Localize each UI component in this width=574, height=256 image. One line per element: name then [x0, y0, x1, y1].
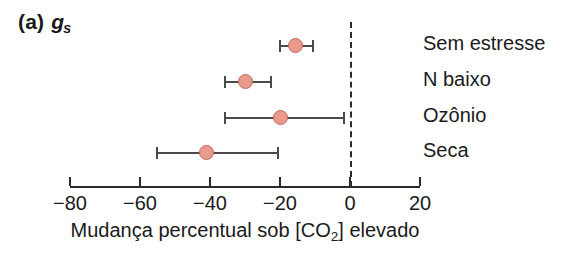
- x-axis-tick: [419, 177, 421, 186]
- errorbar-cap-high: [343, 112, 345, 124]
- x-axis-tick: [209, 177, 211, 186]
- data-point-marker: [288, 38, 303, 53]
- errorbar-cap-high: [277, 147, 279, 159]
- errorbar-cap-high: [270, 76, 272, 88]
- errorbar-cap-low: [224, 112, 226, 124]
- errorbar-line: [157, 152, 278, 154]
- x-axis-tick: [279, 177, 281, 186]
- x-axis-line: [70, 186, 420, 188]
- series-row-label: N baixo: [423, 68, 491, 91]
- x-axis-tick: [139, 177, 141, 186]
- x-axis-tick: [349, 177, 351, 186]
- plot-area: Sem estresseN baixoOzônioSeca −80−60−40−…: [0, 0, 574, 256]
- series-row-label: Ozônio: [423, 104, 486, 127]
- errorbar-cap-high: [312, 40, 314, 52]
- x-axis-tick-label: 20: [409, 192, 431, 215]
- x-axis-title-subscript: 2: [331, 229, 339, 244]
- data-point-marker: [199, 145, 214, 160]
- series-row-label: Seca: [423, 139, 469, 162]
- x-axis-tick-label: −80: [53, 192, 87, 215]
- x-axis-tick-label: −40: [193, 192, 227, 215]
- errorbar-cap-low: [224, 76, 226, 88]
- x-axis-tick-label: −60: [123, 192, 157, 215]
- data-point-marker: [238, 74, 253, 89]
- data-point-marker: [273, 110, 288, 125]
- series-row-label: Sem estresse: [423, 32, 545, 55]
- x-axis-tick-label: −20: [263, 192, 297, 215]
- x-axis-tick: [69, 177, 71, 186]
- errorbar-cap-low: [156, 147, 158, 159]
- series-row: Sem estresse: [0, 34, 574, 58]
- figure-panel-a: (a)gs Sem estresseN baixoOzônioSeca −80−…: [0, 0, 574, 256]
- series-row: Ozônio: [0, 106, 574, 130]
- x-axis-title-prefix: Mudança percentual sob [CO: [71, 219, 331, 241]
- x-axis-tick-label: 0: [344, 192, 355, 215]
- series-row: Seca: [0, 141, 574, 165]
- series-row: N baixo: [0, 70, 574, 94]
- errorbar-cap-low: [279, 40, 281, 52]
- x-axis-title: Mudança percentual sob [CO2] elevado: [71, 219, 420, 242]
- x-axis-title-suffix: ] elevado: [338, 219, 419, 241]
